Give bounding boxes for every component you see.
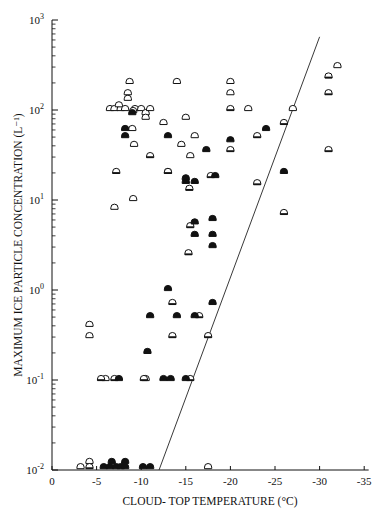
data-point-half <box>164 168 171 173</box>
data-point-open <box>142 114 149 119</box>
data-points <box>77 62 341 468</box>
data-point-filled <box>209 231 216 236</box>
data-point-open <box>124 95 131 100</box>
data-point-open <box>111 204 118 209</box>
data-point-filled <box>139 463 146 468</box>
data-point-filled <box>203 146 210 151</box>
data-point-open <box>173 78 180 83</box>
data-point-filled <box>209 215 216 220</box>
x-tick-label: -10 <box>134 475 149 487</box>
data-point-open <box>130 141 137 146</box>
data-point-filled <box>122 132 129 137</box>
data-point-half <box>147 152 154 157</box>
trend-line <box>159 37 320 470</box>
y-tick-label: 100 <box>29 282 44 296</box>
data-point-filled <box>167 375 174 380</box>
data-point-open <box>86 321 93 326</box>
data-point-open <box>227 78 234 83</box>
data-point-half <box>227 105 234 110</box>
data-point-open <box>122 105 129 110</box>
x-tick-label: -35 <box>357 475 372 487</box>
data-point-filled <box>122 458 129 463</box>
data-point-half <box>186 185 193 190</box>
data-point-open <box>187 152 194 157</box>
data-point-open <box>86 332 93 337</box>
y-tick-label: 101 <box>29 192 44 206</box>
data-point-filled <box>147 312 154 317</box>
x-tick-label: -15 <box>178 475 193 487</box>
reference-line <box>159 37 320 470</box>
data-point-filled <box>209 299 216 304</box>
data-point-half <box>140 375 147 380</box>
data-point-filled <box>191 219 198 224</box>
data-point-filled <box>227 137 234 142</box>
data-point-half <box>97 375 104 380</box>
data-point-open <box>129 125 136 130</box>
data-point-open <box>160 119 167 124</box>
data-point-filled <box>122 125 129 130</box>
data-point-open <box>115 102 122 107</box>
y-tick-label: 10-2 <box>26 462 44 476</box>
data-point-half <box>169 332 176 337</box>
data-point-half <box>254 180 261 185</box>
data-point-filled <box>147 464 154 469</box>
data-point-half <box>325 146 332 151</box>
data-point-filled <box>191 178 198 183</box>
data-point-half <box>227 146 234 151</box>
data-point-open <box>245 105 252 110</box>
data-point-filled <box>191 231 198 236</box>
y-axis-title: MAXIMUM ICE PARTICLE CONCENTRATION (L⁻¹) <box>12 113 25 376</box>
data-point-open <box>147 105 154 110</box>
data-point-open <box>77 463 84 468</box>
data-point-half <box>113 168 120 173</box>
data-point-filled <box>173 312 180 317</box>
data-point-filled <box>144 348 151 353</box>
data-point-filled <box>182 375 189 380</box>
data-point-filled <box>164 285 171 290</box>
data-point-open <box>334 62 341 67</box>
data-point-filled <box>115 375 122 380</box>
data-point-half <box>254 132 261 137</box>
data-point-filled <box>182 175 189 180</box>
data-point-half <box>325 90 332 95</box>
x-tick-label: -30 <box>312 475 327 487</box>
data-point-open <box>130 195 137 200</box>
x-tick-label: -20 <box>223 475 238 487</box>
data-point-open <box>191 132 198 137</box>
data-point-half <box>280 119 287 124</box>
x-axis-title: CLOUD- TOP TEMPERATURE (°C) <box>122 495 297 508</box>
data-point-half <box>205 332 212 337</box>
data-point-open <box>227 90 234 95</box>
data-point-filled <box>108 458 115 463</box>
scatter-chart: 0-5-10-15-20-25-30-3510-210-110010110210… <box>0 0 378 515</box>
data-point-filled <box>280 168 287 173</box>
x-tick-label: 0 <box>49 475 55 487</box>
y-tick-label: 103 <box>29 12 44 26</box>
data-point-filled <box>212 172 219 177</box>
x-tick-label: -25 <box>268 475 283 487</box>
data-point-filled <box>164 132 171 137</box>
data-point-filled <box>122 463 129 468</box>
x-tick-label: -5 <box>92 475 102 487</box>
data-point-open <box>205 463 212 468</box>
data-point-filled <box>160 375 167 380</box>
data-point-half <box>185 250 192 255</box>
data-point-open <box>86 458 93 463</box>
data-point-open <box>178 141 185 146</box>
data-point-filled <box>209 242 216 247</box>
data-point-half <box>280 209 287 214</box>
data-point-filled <box>129 110 136 115</box>
data-point-half <box>169 299 176 304</box>
data-point-filled <box>191 312 198 317</box>
data-point-half <box>86 463 93 468</box>
data-point-open <box>124 90 131 95</box>
data-point-open <box>182 114 189 119</box>
data-point-half <box>325 73 332 78</box>
data-point-filled <box>262 125 269 130</box>
y-tick-label: 10-1 <box>26 372 44 386</box>
y-tick-label: 102 <box>29 102 44 116</box>
axes: 0-5-10-15-20-25-30-3510-210-110010110210… <box>26 12 372 487</box>
data-point-open <box>289 105 296 110</box>
data-point-open <box>126 78 133 83</box>
